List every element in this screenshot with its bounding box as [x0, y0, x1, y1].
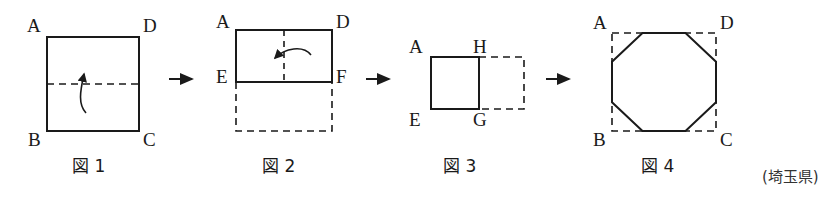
figure-1-label-c: C: [143, 130, 156, 149]
figure-4-octagon: [612, 33, 716, 131]
figure-2-label-a: A: [216, 12, 230, 31]
figure-4-label-a: A: [593, 13, 607, 32]
figure-2-label-f: F: [336, 67, 347, 86]
figure-1-label-d: D: [143, 16, 157, 35]
figure-3-ghost-square: [431, 57, 524, 109]
figure-1-graphic: [47, 37, 139, 131]
figure-2-caption: 図 2: [262, 158, 295, 175]
figure-4-caption: 図 4: [641, 158, 674, 175]
figure-sequence-diagram: A D B C 図 1 A D E F 図 2 A H E G 図 3 A D …: [0, 0, 839, 205]
figure-2-graphic: [236, 30, 332, 131]
figure-3-caption: 図 3: [443, 158, 476, 175]
figure-3-label-e: E: [409, 110, 421, 129]
figure-2-ghost-rectangle: [236, 82, 332, 131]
figure-3-square: [431, 57, 479, 109]
figure-3-label-g: G: [473, 110, 487, 129]
figure-4-label-b: B: [593, 130, 606, 149]
source-attribution: (埼玉県): [762, 170, 819, 185]
figure-1-label-a: A: [27, 16, 41, 35]
figure-2-label-e: E: [216, 67, 228, 86]
figure-2-fold-arrow: [275, 49, 311, 58]
figure-1-caption: 図 1: [72, 158, 105, 175]
figure-3-label-h: H: [473, 37, 487, 56]
figure-4-label-c: C: [720, 130, 733, 149]
figure-4-graphic: [612, 33, 716, 131]
figure-1-label-b: B: [28, 130, 41, 149]
figure-1-fold-arrow: [81, 74, 87, 113]
figure-3-label-a: A: [409, 37, 423, 56]
figure-4-label-d: D: [720, 13, 734, 32]
diagram-canvas: [0, 0, 839, 205]
figure-3-graphic: [431, 57, 524, 109]
figure-2-label-d: D: [336, 12, 350, 31]
